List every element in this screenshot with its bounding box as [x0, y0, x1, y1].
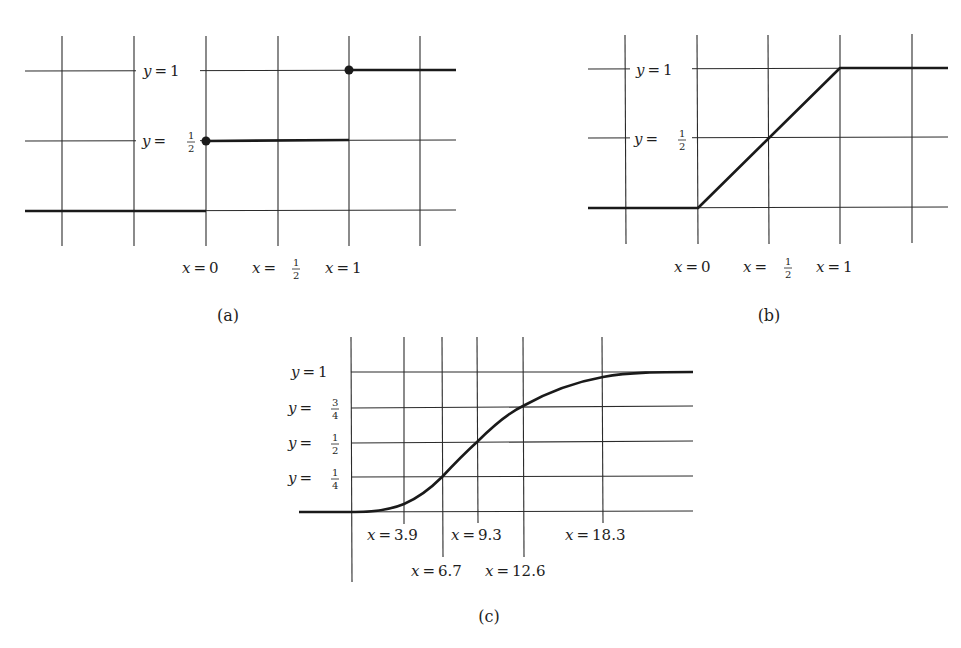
panel-a-step-curve — [25, 66, 456, 212]
frac-num: 1 — [332, 432, 338, 443]
label-y-quarter: y= — [287, 469, 312, 487]
label-x-half: x= — [252, 259, 276, 277]
label-x-1: x=1 — [816, 258, 853, 276]
frac-den: 2 — [679, 141, 685, 152]
label-x-1: x=1 — [325, 259, 362, 277]
label-x-3-9: x=3.9 — [367, 526, 418, 544]
frac-num: 3 — [332, 397, 338, 408]
label-x-0: x=0 — [182, 259, 219, 277]
label-x-12-6: x=12.6 — [485, 562, 545, 580]
label-x-6-7: x=6.7 — [411, 562, 462, 580]
frac-den: 4 — [332, 480, 338, 491]
filled-point-one — [345, 66, 354, 75]
panel-c: y=1 y= 3 4 y= 1 2 y= 1 4 x=3.9 x=9.3 x=1… — [287, 337, 693, 626]
panel-a: y=1 y= 1 2 x=0 x= 1 2 x=1 (a) — [25, 36, 456, 325]
frac-num: 1 — [188, 130, 194, 141]
frac-den: 2 — [293, 270, 299, 281]
frac-den: 2 — [332, 445, 338, 456]
label-y-1: y=1 — [142, 62, 180, 80]
frac-num: 1 — [785, 256, 791, 267]
caption-b: (b) — [758, 306, 781, 325]
label-y-1: y=1 — [635, 61, 673, 79]
figure-canvas: y=1 y= 1 2 x=0 x= 1 2 x=1 (a) y=1 y= 1 — [0, 0, 961, 648]
label-x-0: x=0 — [674, 258, 711, 276]
label-x-half: x= — [743, 258, 767, 276]
label-y-half: y= — [141, 132, 166, 150]
frac-num: 1 — [293, 257, 299, 268]
frac-den: 2 — [188, 143, 194, 154]
panel-b: y=1 y= 1 2 x=0 x= 1 2 x=1 (b) — [588, 34, 948, 325]
frac-den: 4 — [332, 410, 338, 421]
frac-num: 1 — [679, 128, 685, 139]
label-y-half: y= — [633, 130, 658, 148]
label-x-18-3: x=18.3 — [565, 526, 625, 544]
filled-point-half — [202, 137, 211, 146]
label-x-9-3: x=9.3 — [451, 526, 502, 544]
label-y-1: y=1 — [290, 363, 328, 381]
label-y-half: y= — [287, 434, 312, 452]
caption-a: (a) — [217, 306, 239, 325]
frac-num: 1 — [332, 467, 338, 478]
caption-c: (c) — [478, 607, 499, 626]
label-y-three-quarters: y= — [287, 399, 312, 417]
frac-den: 2 — [785, 269, 791, 280]
